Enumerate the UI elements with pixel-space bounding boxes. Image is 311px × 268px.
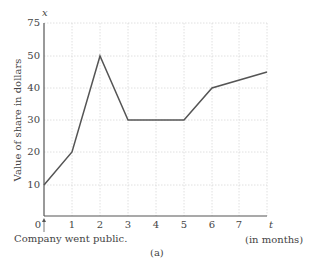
- svg-text:20: 20: [27, 146, 40, 157]
- y-tick-labels: 75 50 40 30 20 10: [27, 17, 40, 190]
- svg-text:5: 5: [181, 219, 187, 230]
- svg-text:50: 50: [27, 50, 40, 61]
- svg-text:3: 3: [125, 219, 131, 230]
- svg-text:0: 0: [35, 219, 41, 230]
- svg-text:10: 10: [27, 179, 40, 190]
- x-tick-labels: 0 1 2 3 4 5 6 7: [35, 219, 242, 230]
- x-axis-unit: (in months): [245, 234, 303, 245]
- chart: 75 50 40 30 20 10 x Value of share in do…: [0, 0, 311, 268]
- svg-text:4: 4: [153, 219, 159, 230]
- svg-text:1: 1: [69, 219, 75, 230]
- svg-text:2: 2: [97, 219, 103, 230]
- x-axis-symbol: t: [269, 219, 274, 230]
- svg-text:30: 30: [27, 114, 40, 125]
- figure-caption: (a): [150, 247, 164, 258]
- share-value-line: [44, 56, 267, 185]
- arrow-up-icon: [42, 218, 46, 232]
- svg-text:75: 75: [27, 17, 40, 28]
- annotation-company-went-public: Company went public.: [14, 233, 127, 244]
- y-axis-title: Value of share in dollars: [12, 59, 23, 183]
- y-axis-symbol: x: [42, 7, 48, 18]
- svg-text:40: 40: [27, 82, 40, 93]
- svg-text:6: 6: [209, 219, 215, 230]
- svg-text:7: 7: [236, 219, 242, 230]
